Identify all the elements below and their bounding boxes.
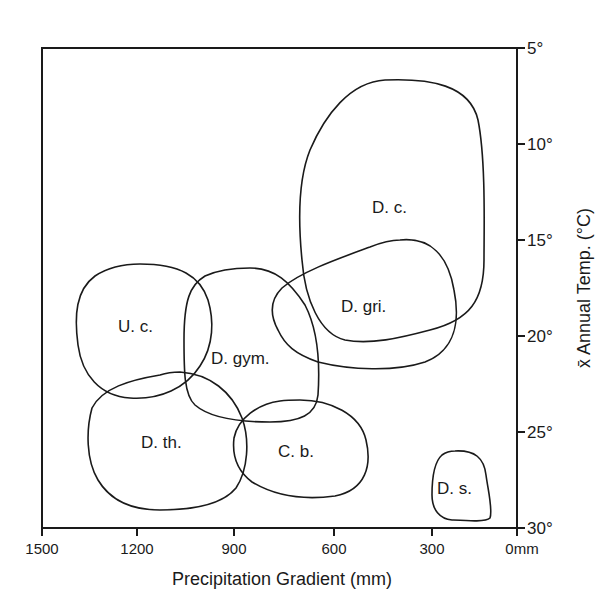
x-tick-label: 300 bbox=[419, 540, 444, 557]
y-tick-label: 20° bbox=[527, 327, 553, 346]
y-tick-label: 30° bbox=[527, 519, 553, 538]
y-axis-title: x̄ Annual Temp. (°C) bbox=[574, 208, 594, 368]
y-tick-label: 10° bbox=[527, 135, 553, 154]
y-tick-label: 15° bbox=[527, 231, 553, 250]
region-label-d-gri: D. gri. bbox=[341, 297, 386, 316]
y-tick-label: 5° bbox=[527, 39, 543, 58]
region-label-d-c: D. c. bbox=[372, 198, 407, 217]
region-label-c-b: C. b. bbox=[278, 442, 314, 461]
x-axis-title: Precipitation Gradient (mm) bbox=[172, 569, 392, 589]
x-tick-label: 0mm bbox=[505, 540, 538, 557]
x-tick-label: 1200 bbox=[120, 540, 153, 557]
region-label-d-th: D. th. bbox=[141, 433, 182, 452]
x-tick-label: 900 bbox=[221, 540, 246, 557]
region-label-d-gym: D. gym. bbox=[211, 349, 270, 368]
x-axis-ticks bbox=[42, 528, 517, 536]
climate-envelope-chart: 1500 1200 900 600 300 0mm Precipitation … bbox=[0, 0, 612, 616]
region-label-u-c: U. c. bbox=[118, 317, 153, 336]
y-axis-ticks bbox=[517, 48, 525, 528]
region-label-d-s: D. s. bbox=[437, 479, 472, 498]
x-tick-label: 600 bbox=[321, 540, 346, 557]
y-tick-label: 25° bbox=[527, 423, 553, 442]
y-axis-tick-labels: 5° 10° 15° 20° 25° 30° bbox=[527, 39, 553, 538]
x-tick-label: 1500 bbox=[25, 540, 58, 557]
x-axis-tick-labels: 1500 1200 900 600 300 0mm bbox=[25, 540, 538, 557]
